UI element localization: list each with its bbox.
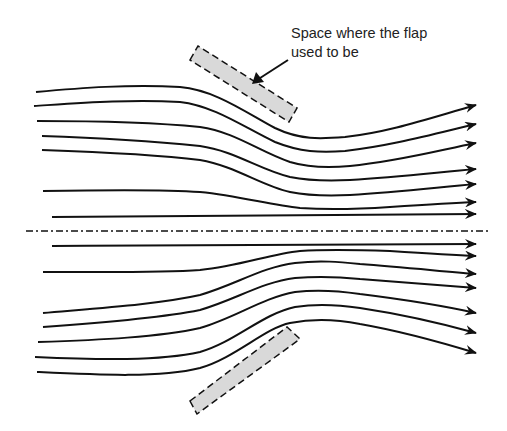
lower-flap-outline [190,327,300,414]
upper-streamlines [34,86,476,217]
annotation-line-1: Space where the flap [291,25,427,41]
streamline-upper-3 [37,121,476,167]
annotation-pointer-arrow [252,60,288,84]
diagram-canvas: Space where the flap used to be [0,0,507,431]
flow-diagram: Space where the flap used to be [0,0,507,431]
annotation-line-2: used to be [291,44,359,60]
streamline-lower-1 [52,244,476,246]
streamline-upper-4 [42,136,476,181]
streamline-upper-7 [52,214,476,217]
streamline-upper-6 [43,190,476,209]
streamline-upper-2 [34,101,476,152]
